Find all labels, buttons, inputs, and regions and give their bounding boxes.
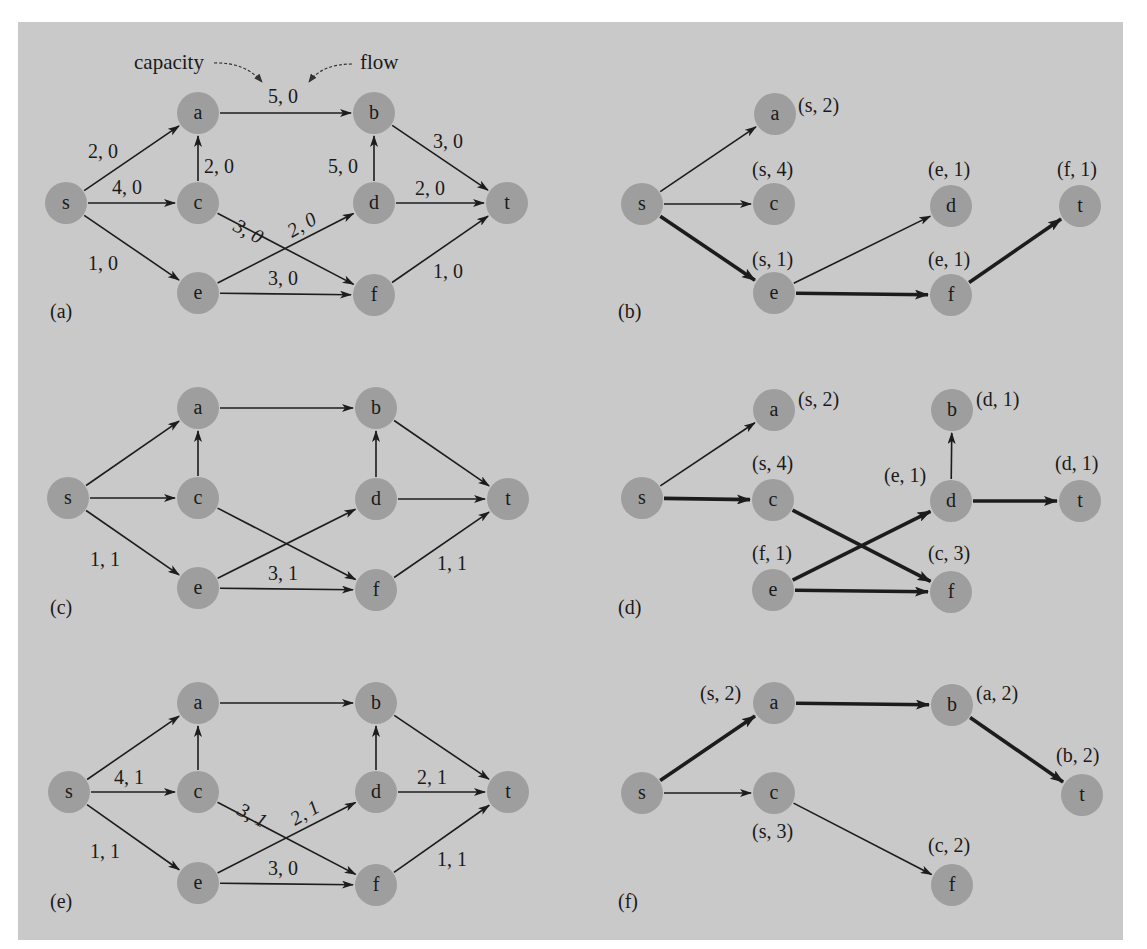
node-label: c (194, 191, 203, 213)
node-d: d (355, 478, 397, 520)
node-label: b (947, 693, 957, 715)
node-label: a (194, 396, 203, 418)
edge-s-a (660, 127, 756, 192)
node-a: a (754, 93, 796, 135)
node-f: f (353, 274, 395, 316)
node-label: c (770, 781, 779, 803)
edge-label-e-d: 2, 0 (283, 207, 320, 241)
node-annotation-t: (f, 1) (1057, 158, 1097, 181)
node-label: s (638, 486, 646, 508)
edge-e-f (795, 590, 928, 591)
node-annotation-t: (b, 2) (1056, 744, 1099, 767)
edge-a-b (796, 703, 929, 704)
node-label: e (769, 578, 778, 600)
node-annotation-e: (s, 1) (752, 248, 793, 271)
node-c: c (177, 182, 219, 224)
node-label: a (770, 691, 779, 713)
node-c: c (177, 477, 219, 519)
node-label: t (1079, 783, 1085, 805)
node-label: t (504, 191, 510, 213)
node-label: f (948, 283, 955, 305)
node-annotation-c: (s, 4) (752, 452, 793, 475)
edge-d-b (951, 433, 952, 479)
node-f: f (930, 571, 972, 613)
node-t: t (1059, 480, 1101, 522)
edge-label-s-c: 4, 0 (112, 176, 142, 198)
node-b: b (931, 684, 973, 726)
node-label: t (1077, 194, 1083, 216)
node-f: f (930, 274, 972, 316)
edge-e-f (220, 588, 353, 589)
node-label: f (948, 580, 955, 602)
node-f: f (355, 569, 397, 611)
edge-label-s-a: 2, 0 (88, 140, 118, 162)
edge-label-e-f: 3, 1 (268, 562, 298, 584)
node-annotation-d: (e, 1) (928, 158, 970, 181)
node-annotation-f: (e, 1) (928, 248, 970, 271)
node-annotation-b: (d, 1) (976, 388, 1019, 411)
edge-e-f (220, 293, 351, 294)
panel-f: sabctf(s, 2)(a, 2)(s, 3)(b, 2)(c, 2)(f) (618, 682, 1103, 913)
node-label: d (371, 780, 381, 802)
panel-label: (b) (618, 300, 641, 323)
edge-label-e-f: 3, 0 (268, 857, 298, 879)
panel-label: (a) (50, 300, 72, 323)
node-a: a (177, 682, 219, 724)
node-label: e (770, 281, 779, 303)
node-annotation-f: (c, 3) (928, 542, 970, 565)
panel-c: 1, 13, 11, 1sacebdft(c) (47, 387, 529, 619)
edge-label-s-e: 1, 0 (88, 252, 118, 274)
node-label: d (946, 489, 956, 511)
edge-label-c-f: 3, 0 (229, 214, 267, 248)
node-label: d (369, 191, 379, 213)
node-label: t (505, 780, 511, 802)
node-s: s (621, 477, 663, 519)
node-f: f (931, 864, 973, 906)
node-d: d (930, 185, 972, 227)
node-label: s (65, 780, 73, 802)
panel-label: (e) (50, 890, 72, 913)
node-c: c (753, 772, 795, 814)
node-annotation-a: (s, 2) (798, 388, 839, 411)
panel-label: (d) (618, 596, 641, 619)
edge-c-f (794, 803, 932, 874)
panel-label: (f) (618, 890, 638, 913)
node-f: f (355, 864, 397, 906)
edge-label-f-t: 1, 0 (433, 260, 463, 282)
node-label: s (638, 192, 646, 214)
node-e: e (177, 862, 219, 904)
node-label: f (373, 873, 380, 895)
node-label: e (194, 871, 203, 893)
edge-label-e-d: 2, 1 (286, 795, 323, 829)
node-e: e (753, 272, 795, 314)
node-label: c (194, 486, 203, 508)
node-d: d (355, 771, 397, 813)
node-label: b (369, 101, 379, 123)
node-label: e (194, 576, 203, 598)
panel-b: sacedft(s, 2)(s, 4)(e, 1)(f, 1)(s, 1)(e,… (618, 93, 1101, 323)
node-label: f (371, 283, 378, 305)
flow-network-figure: capacity flow 2, 04, 01, 02, 05, 03, 02,… (0, 0, 1147, 949)
edge-s-a (660, 423, 755, 486)
panel-e: 4, 11, 13, 12, 13, 02, 11, 1sacebdft(e) (48, 682, 529, 913)
edge-s-e (660, 216, 755, 280)
node-e: e (752, 569, 794, 611)
node-t: t (487, 771, 529, 813)
node-c: c (752, 479, 794, 521)
edge-label-b-t: 3, 0 (433, 130, 463, 152)
node-e: e (177, 272, 219, 314)
node-s: s (47, 477, 89, 519)
edge-e-d (794, 216, 931, 283)
node-s: s (621, 183, 663, 225)
node-e: e (177, 567, 219, 609)
node-d: d (930, 480, 972, 522)
node-annotation-b: (a, 2) (976, 682, 1018, 705)
edge-label-c-a: 2, 0 (204, 155, 234, 177)
node-label: f (373, 578, 380, 600)
edge-b-t (394, 420, 489, 485)
edge-label-d-t: 2, 1 (417, 766, 447, 788)
node-s: s (48, 771, 90, 813)
node-annotation-d: (e, 1) (884, 464, 926, 487)
node-annotation-a: (s, 2) (700, 682, 741, 705)
node-s: s (621, 772, 663, 814)
